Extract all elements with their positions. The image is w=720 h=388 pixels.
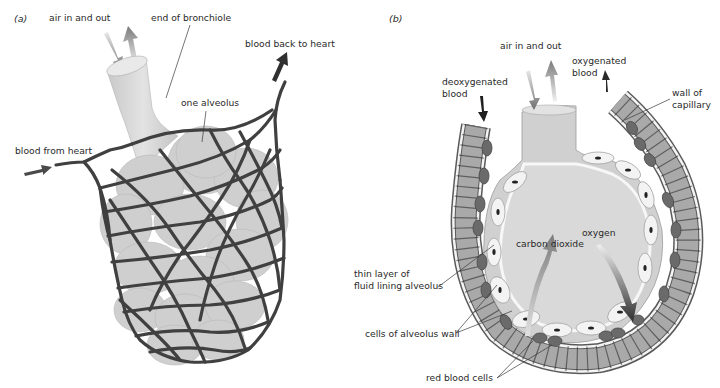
label-air-in-out-b: air in and out [500,40,562,51]
label-one-alveolus: one alveolus [181,97,239,108]
panel-b: (b) [354,13,712,383]
label-carbon-dioxide: carbon dioxide [516,238,584,249]
label-wall-capillary: capillary [672,99,712,110]
air-arrows-b-icon [526,60,558,110]
panel-a-label: (a) [14,13,27,24]
label-deoxygenated: deoxygenated [442,76,508,87]
leader-bronchiole [166,25,190,98]
blood-in-arrow-icon [24,165,52,176]
label-cells-alveolus-wall: cells of alveolus wall [365,328,460,339]
blood-out-arrow-icon [272,52,288,82]
panel-b-label: (b) [389,13,402,24]
label-red-blood-cells: red blood cells [426,372,493,383]
label-oxygenated-blood: blood [572,67,597,78]
label-blood-back-to-heart: blood back to heart [245,38,335,49]
oxy-arrow-icon [602,70,610,92]
label-fluid-lining: fluid lining alveolus [354,280,443,291]
panel-a: (a) [14,12,335,365]
label-air-in-out-a: air in and out [49,12,111,23]
deoxy-arrow-icon [478,96,488,122]
bronchiole [105,52,178,170]
label-thin-layer: thin layer of [354,268,410,279]
label-wall-of: wall of [672,87,703,98]
label-oxygen: oxygen [582,227,616,238]
label-deoxygenated-blood: blood [442,88,467,99]
alveolus-diagram: (a) [0,0,720,388]
label-blood-from-heart: blood from heart [15,145,93,156]
label-oxygenated: oxygenated [572,55,626,66]
alveoli-cluster [100,126,288,365]
label-end-of-bronchiole: end of bronchiole [151,12,231,23]
